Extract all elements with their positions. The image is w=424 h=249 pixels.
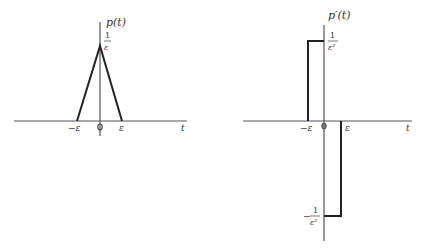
right-bottom-den: ε²	[310, 218, 318, 227]
left-peak-num: 1	[105, 31, 110, 40]
left-xlabel: t	[181, 123, 185, 133]
right-tick-neg: −ε	[300, 123, 313, 133]
left-panel: p(t) 1 ε −ε ε t	[14, 16, 187, 136]
right-top-num: 1	[330, 31, 335, 40]
right-panel: p′(t) 1 ε² − 1 ε² −ε ε t	[243, 9, 412, 241]
left-tick-pos: ε	[119, 123, 124, 133]
right-ylabel: p′(t)	[328, 9, 351, 22]
derivative-negative-step	[324, 121, 341, 216]
derivative-positive-step	[308, 41, 324, 121]
left-ylabel: p(t)	[106, 16, 126, 29]
right-bottom-num: 1	[313, 206, 318, 215]
figure: p(t) 1 ε −ε ε t p′(t) 1 ε² − 1 ε² −ε ε	[0, 0, 424, 249]
left-tick-neg: −ε	[68, 123, 81, 133]
right-xlabel: t	[406, 123, 410, 133]
right-origin-marker	[322, 123, 326, 129]
right-top-den: ε²	[328, 43, 336, 52]
figure-svg: p(t) 1 ε −ε ε t p′(t) 1 ε² − 1 ε² −ε ε	[0, 0, 424, 249]
right-tick-pos: ε	[345, 123, 350, 133]
left-peak-den: ε	[104, 43, 108, 52]
